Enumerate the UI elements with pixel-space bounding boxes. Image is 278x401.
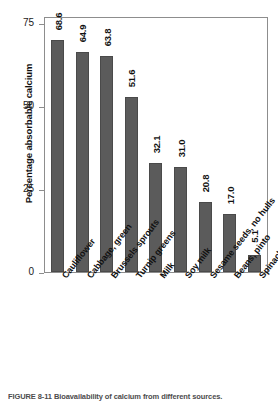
bar-value-label: 20.8	[200, 174, 211, 192]
bar-group: 17.0	[223, 18, 236, 272]
figure-caption: FIGURE 8-11 Bioavailability of calcium f…	[8, 392, 274, 401]
bar-value-label: 63.8	[101, 29, 112, 47]
bar-group: 68.6	[51, 18, 64, 272]
y-tick-0: 0	[0, 273, 44, 274]
bar-value-label: 17.0	[224, 187, 235, 205]
bar-value-label: 51.6	[126, 70, 137, 88]
bar-value-label: 31.0	[175, 140, 186, 158]
bar[interactable]	[51, 40, 64, 272]
y-tick-50: 50	[0, 107, 44, 108]
y-tick-25: 25	[0, 190, 44, 191]
bar-group: 63.8	[100, 18, 113, 272]
bar[interactable]	[174, 167, 187, 272]
bar-value-label: 32.1	[150, 136, 161, 154]
y-tick-label-50: 50	[23, 100, 34, 111]
bar-value-label: 68.6	[52, 12, 63, 30]
y-tick-label-75: 75	[23, 17, 34, 28]
bar-group: 20.8	[199, 18, 212, 272]
bars-layer: 68.664.963.851.632.131.020.817.05.1	[45, 18, 267, 272]
bar-value-label: 64.9	[77, 25, 88, 43]
y-tick-label-0: 0	[28, 266, 34, 277]
y-tick-mark-0	[39, 273, 44, 274]
x-axis-category-labels: CauliflowerCabbage, greenBrussels sprout…	[45, 274, 278, 384]
y-tick-label-25: 25	[23, 183, 34, 194]
y-tick-75: 75	[0, 24, 44, 25]
figure-bar-chart: Percentage absorbable calcium 0 25 50 75…	[0, 0, 278, 401]
bar-group: 64.9	[76, 18, 89, 272]
